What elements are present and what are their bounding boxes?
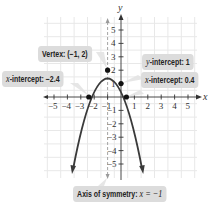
- y-intercept-point: [118, 81, 123, 86]
- x-intercept-left-callout: x-intercept: −2.4: [2, 71, 64, 87]
- curve-arrow-right-icon: [139, 165, 145, 174]
- y-intercept-callout: y-intercept: 1: [142, 54, 194, 70]
- vertex-point: [105, 68, 110, 73]
- y-axis-label: y: [117, 2, 123, 13]
- x-intercept-right-callout: x-intercept: 0.4: [141, 72, 199, 88]
- svg-text:−3: −3: [107, 132, 117, 142]
- svg-text:2: 2: [145, 101, 150, 111]
- svg-text:−3: −3: [75, 101, 85, 111]
- x-intercept-left-point: [86, 94, 91, 99]
- svg-text:−4: −4: [107, 146, 117, 156]
- grid: [44, 17, 197, 178]
- x-intercept-right-point: [124, 94, 129, 99]
- x-axis-label: x: [202, 91, 208, 102]
- y-axis: [119, 17, 124, 180]
- svg-text:3: 3: [159, 101, 164, 111]
- parabola-graph: y x −5 −4 −3 −2 −1 1 2 3 4 5 5 4 3 2 1 −…: [0, 0, 212, 208]
- svg-text:5: 5: [186, 101, 191, 111]
- y-axis-arrow-icon: [119, 14, 124, 20]
- svg-text:−5: −5: [48, 101, 58, 111]
- svg-text:−2: −2: [107, 119, 117, 129]
- curve-arrow-left-icon: [71, 165, 77, 174]
- svg-text:4: 4: [172, 101, 177, 111]
- vertex-callout: Vertex: (−1, 2): [38, 46, 92, 62]
- svg-text:−4: −4: [61, 101, 71, 111]
- svg-text:−1: −1: [107, 105, 117, 115]
- x-axis-left-arrow-icon: [43, 95, 48, 99]
- axis-of-symmetry-callout: Axis of symmetry: x = −1: [73, 186, 166, 202]
- x-tick-labels: −5 −4 −3 −2 −1 1 2 3 4 5: [48, 101, 191, 111]
- svg-text:1: 1: [132, 101, 137, 111]
- svg-text:5: 5: [111, 25, 116, 35]
- svg-text:3: 3: [111, 52, 116, 62]
- svg-text:−5: −5: [107, 159, 117, 169]
- x-axis-arrow-icon: [196, 95, 202, 100]
- svg-text:4: 4: [111, 38, 116, 48]
- svg-text:2: 2: [111, 65, 116, 75]
